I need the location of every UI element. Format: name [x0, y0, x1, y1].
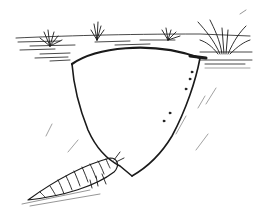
grass-tuft-center-left	[91, 22, 104, 40]
illustration-canvas	[0, 0, 275, 216]
grass-tuft-left	[40, 30, 62, 46]
cavity-outline	[72, 48, 206, 176]
sketch-illustration	[0, 0, 275, 216]
background-hatching	[46, 88, 216, 152]
soil-surface	[16, 34, 252, 68]
larva	[22, 152, 124, 206]
grass-tuft-right	[198, 10, 250, 54]
